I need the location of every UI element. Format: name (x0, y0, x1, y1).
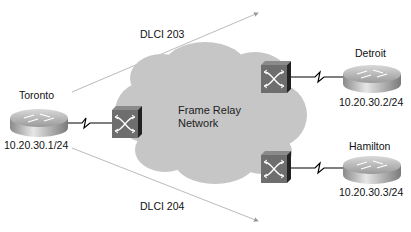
serial-link-detroit (291, 72, 345, 82)
router-name-hamilton: Hamilton (349, 141, 390, 152)
frame-relay-switch-icon (261, 151, 291, 183)
pvc-label-dlci-204: DLCI 204 (140, 201, 184, 212)
router-name-toronto: Toronto (19, 90, 54, 101)
router-name-detroit: Detroit (355, 48, 386, 59)
router-icon-hamilton (343, 156, 401, 184)
serial-link-hamilton (291, 163, 345, 173)
pvc-label-dlci-203: DLCI 203 (140, 29, 184, 40)
router-icon-detroit (343, 65, 401, 93)
router-ip-toronto: 10.20.30.1/24 (4, 140, 68, 151)
cloud-label-line1: Frame Relay (178, 104, 241, 117)
router-ip-detroit: 10.20.30.2/24 (339, 97, 403, 108)
frame-relay-diagram: DLCI 203 DLCI 204 Frame Relay Network To… (0, 0, 411, 232)
frame-relay-switch-icon (261, 61, 291, 93)
cloud-label-line2: Network (178, 117, 218, 130)
router-ip-hamilton: 10.20.30.3/24 (339, 187, 403, 198)
router-icon-toronto (10, 109, 68, 137)
frame-relay-switch-icon (112, 106, 142, 138)
